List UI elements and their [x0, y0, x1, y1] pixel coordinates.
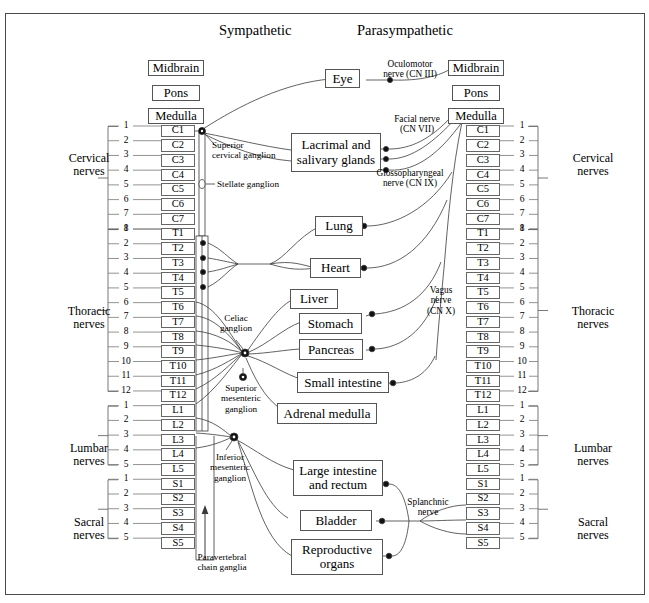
- nerve-number-cervical-7-left: 7: [120, 208, 132, 218]
- segment-t7-left: T7: [161, 316, 195, 329]
- segment-c2-right: C2: [466, 139, 500, 152]
- segment-l1-left: L1: [161, 404, 195, 417]
- segment-s4-left: S4: [161, 522, 195, 535]
- nerve-number-thoracic-2-left: 2: [120, 238, 132, 248]
- nerve-number-sacral-5-right: 5: [516, 532, 528, 542]
- label-facial-nerve: Facial nerve (CN VII): [381, 114, 453, 135]
- nerve-number-thoracic-6-right: 6: [516, 297, 528, 307]
- segment-t2-left: T2: [161, 242, 195, 255]
- segment-t3-left: T3: [161, 257, 195, 270]
- box-midbrain-parasympathetic: Midbrain: [448, 60, 504, 76]
- segment-s3-right: S3: [466, 507, 500, 520]
- segment-s4-right: S4: [466, 522, 500, 535]
- segment-t9-right: T9: [466, 345, 500, 358]
- nerve-number-thoracic-10-right: 10: [516, 356, 528, 366]
- label-superior-cervical-ganglion: Superior cervical ganglion: [212, 140, 276, 161]
- segment-t11-left: T11: [161, 375, 195, 388]
- nerve-number-thoracic-10-left: 10: [120, 356, 132, 366]
- box-stomach: Stomach: [299, 313, 362, 334]
- nerve-number-thoracic-7-right: 7: [516, 311, 528, 321]
- nerve-number-cervical-5-right: 5: [516, 179, 528, 189]
- segment-l2-right: L2: [466, 419, 500, 432]
- segment-t12-left: T12: [161, 389, 195, 402]
- nerve-number-thoracic-1-left: 1: [120, 223, 132, 233]
- segment-s2-right: S2: [466, 493, 500, 506]
- nerve-number-thoracic-12-right: 12: [516, 385, 528, 395]
- box-midbrain-sympathetic: Midbrain: [148, 60, 204, 76]
- nerve-number-thoracic-9-left: 9: [120, 341, 132, 351]
- segment-l3-left: L3: [161, 434, 195, 447]
- nerve-number-sacral-4-right: 4: [516, 517, 528, 527]
- nerve-number-cervical-2-right: 2: [516, 135, 528, 145]
- diagram-canvas: Sympathetic Parasympathetic: [0, 0, 649, 603]
- nerve-number-cervical-6-right: 6: [516, 194, 528, 204]
- box-small-intestine: Small intestine: [297, 372, 389, 393]
- segment-c1-left: C1: [161, 125, 195, 138]
- label-paravertebral-chain-ganglia: Paravertebral chain ganglia: [186, 552, 258, 573]
- group-label-sacral-left: Sacral nerves: [46, 516, 132, 542]
- box-liver: Liver: [290, 289, 338, 309]
- nerve-number-lumbar-1-left: 1: [120, 400, 132, 410]
- label-oculomotor-nerve: Oculomotor nerve (CN III): [369, 59, 451, 80]
- segment-c7-left: C7: [161, 213, 195, 226]
- nerve-number-thoracic-9-right: 9: [516, 341, 528, 351]
- segment-l5-right: L5: [466, 463, 500, 476]
- box-heart: Heart: [310, 258, 361, 278]
- group-label-lumbar-left: Lumbar nerves: [46, 442, 132, 468]
- box-adrenal-medulla: Adrenal medulla: [277, 403, 377, 424]
- segment-t10-right: T10: [466, 360, 500, 373]
- nerve-number-cervical-6-left: 6: [120, 194, 132, 204]
- segment-t6-left: T6: [161, 301, 195, 314]
- segment-l3-right: L3: [466, 434, 500, 447]
- segment-t10-left: T10: [161, 360, 195, 373]
- segment-t8-right: T8: [466, 331, 500, 344]
- nerve-number-thoracic-2-right: 2: [516, 238, 528, 248]
- segment-t4-left: T4: [161, 272, 195, 285]
- label-glossopharyngeal-nerve: Glossopharyngeal nerve (CN IX): [358, 168, 462, 189]
- segment-c3-left: C3: [161, 154, 195, 167]
- nerve-number-cervical-7-right: 7: [516, 208, 528, 218]
- nerve-number-lumbar-2-left: 2: [120, 414, 132, 424]
- segment-c4-right: C4: [466, 169, 500, 182]
- box-pons-sympathetic: Pons: [152, 85, 200, 101]
- segment-t3-right: T3: [466, 257, 500, 270]
- segment-c3-right: C3: [466, 154, 500, 167]
- segment-s3-left: S3: [161, 507, 195, 520]
- label-vagus-nerve: Vagus nerve (CN X): [418, 285, 464, 316]
- title-sympathetic: Sympathetic: [219, 22, 292, 39]
- nerve-number-thoracic-5-right: 5: [516, 282, 528, 292]
- nerve-number-lumbar-1-right: 1: [516, 400, 528, 410]
- segment-s5-right: S5: [466, 537, 500, 550]
- segment-t2-right: T2: [466, 242, 500, 255]
- segment-c1-right: C1: [466, 125, 500, 138]
- segment-t7-right: T7: [466, 316, 500, 329]
- nerve-number-lumbar-4-right: 4: [516, 444, 528, 454]
- nerve-number-thoracic-1-right: 1: [516, 223, 528, 233]
- nerve-number-cervical-4-right: 4: [516, 164, 528, 174]
- box-medulla-parasympathetic: Medulla: [448, 108, 504, 124]
- segment-c5-right: C5: [466, 183, 500, 196]
- nerve-number-cervical-2-left: 2: [120, 135, 132, 145]
- segment-s1-left: S1: [161, 478, 195, 491]
- box-large-intestine-and-rectum: Large intestine and rectum: [293, 460, 383, 496]
- segment-c2-left: C2: [161, 139, 195, 152]
- group-label-cervical-left: Cervical nerves: [46, 152, 132, 178]
- nerve-number-cervical-1-left: 1: [120, 120, 132, 130]
- segment-t5-left: T5: [161, 286, 195, 299]
- segment-l2-left: L2: [161, 419, 195, 432]
- box-pancreas: Pancreas: [299, 339, 363, 360]
- box-reproductive-organs: Reproductive organs: [291, 539, 383, 575]
- nerve-number-sacral-1-left: 1: [120, 473, 132, 483]
- segment-t1-left: T1: [161, 228, 195, 241]
- nerve-number-thoracic-11-left: 11: [120, 370, 132, 380]
- label-celiac-ganglion: Celiac ganglion: [207, 313, 265, 334]
- nerve-number-thoracic-12-left: 12: [120, 385, 132, 395]
- segment-l1-right: L1: [466, 404, 500, 417]
- box-medulla-sympathetic: Medulla: [148, 108, 204, 124]
- group-label-sacral-right: Sacral nerves: [550, 516, 636, 542]
- nerve-number-cervical-5-left: 5: [120, 179, 132, 189]
- nerve-number-lumbar-3-right: 3: [516, 429, 528, 439]
- segment-t9-left: T9: [161, 345, 195, 358]
- label-splanchnic-nerve: Splanchnic nerve: [398, 497, 458, 518]
- segment-t4-right: T4: [466, 272, 500, 285]
